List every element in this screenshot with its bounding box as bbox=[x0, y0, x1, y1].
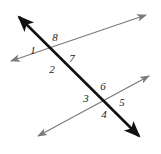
angle-label-6: 6 bbox=[100, 81, 106, 92]
geometry-figure: 12783456 bbox=[0, 0, 161, 154]
angle-label-8: 8 bbox=[52, 32, 58, 43]
angle-label-4: 4 bbox=[101, 109, 107, 120]
angle-label-5: 5 bbox=[119, 97, 125, 108]
angle-label-7: 7 bbox=[69, 53, 75, 64]
transversal-line bbox=[19, 17, 139, 136]
geometry-canvas bbox=[0, 0, 161, 154]
lower-parallel-line bbox=[38, 76, 149, 136]
angle-label-2: 2 bbox=[49, 64, 55, 75]
angle-label-1: 1 bbox=[30, 45, 36, 56]
angle-label-3: 3 bbox=[83, 93, 89, 104]
